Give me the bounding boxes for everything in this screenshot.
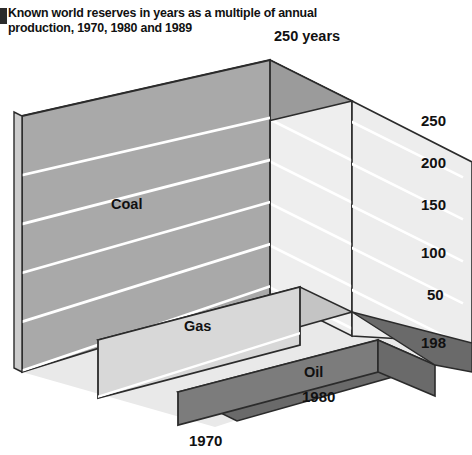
series-label-oil: Oil [304,364,323,380]
y-axis-tick-250: 250 [421,112,446,129]
chart-canvas [0,0,472,455]
series-label-gas: Gas [184,318,211,334]
y-axis-tick-150: 150 [421,196,446,213]
coal-left-end-face [14,112,22,372]
chart-title-line-1: Known world reserves in years as a multi… [8,6,338,21]
series-label-coal: Coal [111,196,142,212]
depth-label-1980: 1980 [302,388,335,405]
y-axis-tick-200: 200 [421,154,446,171]
y-axis-tick-100: 100 [421,244,446,261]
y-axis-tick-50: 50 [427,286,444,303]
depth-label-1989-truncated: 198 [421,334,446,351]
title-accent-bar [0,8,7,24]
chart-figure: Known world reserves in years as a multi… [0,0,472,455]
chart-title: Known world reserves in years as a multi… [8,6,338,36]
chart-title-line-2: production, 1970, 1980 and 1989 [8,21,338,36]
depth-label-1970: 1970 [189,432,222,449]
right-wall-panel [352,101,472,343]
